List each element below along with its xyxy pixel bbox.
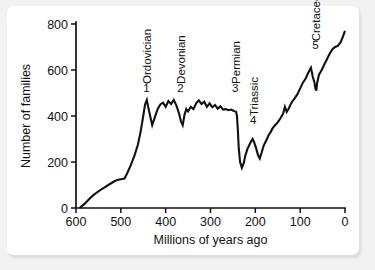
figure-container: 02004006008006005004003002001000Millions… — [0, 0, 375, 270]
x-tick-label: 100 — [290, 215, 311, 229]
extinction-label-triassic: Triassic — [248, 77, 260, 116]
y-tick-label: 0 — [61, 202, 68, 216]
x-tick-label: 300 — [200, 215, 221, 229]
extinction-line-chart: 02004006008006005004003002001000Millions… — [0, 0, 375, 270]
y-tick-label: 800 — [47, 18, 68, 32]
y-tick-label: 400 — [47, 110, 68, 124]
y-tick-label: 600 — [47, 64, 68, 78]
extinction-label-ordovician: Ordovician — [141, 29, 153, 84]
x-tick-label: 200 — [245, 215, 266, 229]
x-tick-label: 400 — [155, 215, 176, 229]
x-tick-label: 500 — [110, 215, 131, 229]
extinction-label-cretaceous: Cretaceous — [310, 0, 322, 41]
y-axis-title: Number of families — [19, 64, 33, 168]
extinction-label-permian: Permian — [230, 41, 242, 84]
x-tick-label: 600 — [66, 215, 87, 229]
extinction-label-devonian: Devonian — [175, 35, 187, 84]
x-axis-title: Millions of years ago — [154, 233, 268, 247]
y-tick-label: 200 — [47, 156, 68, 170]
extinction-curve — [80, 31, 345, 208]
x-tick-label: 0 — [342, 215, 349, 229]
